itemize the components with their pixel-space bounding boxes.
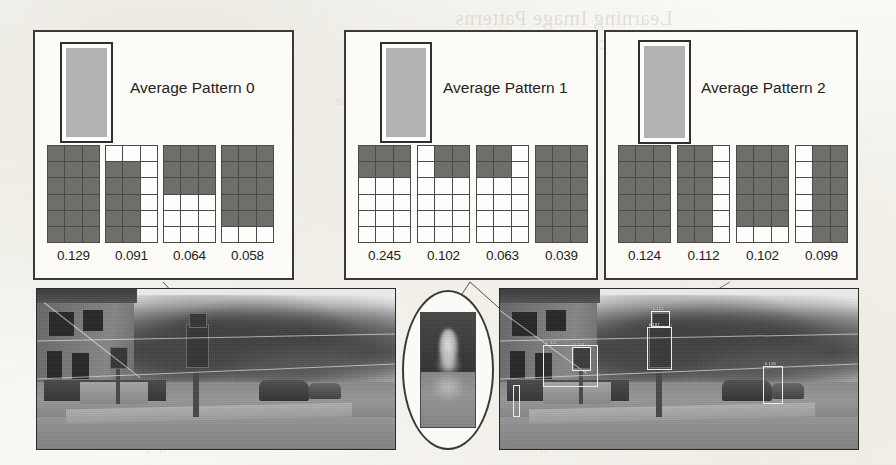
pattern-grid [105,145,158,243]
pattern-cell [536,195,552,210]
pattern-cell [222,162,238,177]
pattern-cell [512,178,528,193]
pattern-swatch: 0.102 [417,145,470,263]
pattern-cell [477,211,493,226]
callout-magnified-crop [420,312,476,428]
pattern-cell [619,195,635,210]
pattern-swatch: 0.099 [795,145,848,263]
pattern-cell [65,195,81,210]
pattern-cell [477,227,493,242]
pattern-cell [831,162,847,177]
pattern-cell [636,162,652,177]
pattern-value-label: 0.039 [545,248,578,263]
pattern-cell [181,227,197,242]
pattern-cell [359,227,375,242]
pattern-cell [494,195,510,210]
pattern-cell [199,146,215,161]
pattern-cell [239,227,255,242]
pattern-cell [536,146,552,161]
pattern-cell [123,211,139,226]
pattern-cell [418,211,434,226]
pattern-cell [571,211,587,226]
pattern-grid [358,145,411,243]
average-pattern-panel-1: Average Pattern 1 0.2450.1020.0630.039 [344,30,598,280]
pattern-cell [123,227,139,242]
pattern-cell [813,146,829,161]
pattern-grid [618,145,671,243]
pattern-cell [257,162,273,177]
pattern-cell [164,146,180,161]
pattern-grid-row-0: 0.1290.0910.0640.058 [47,145,274,263]
pattern-cell [678,178,694,193]
pattern-cell [164,178,180,193]
pattern-cell [813,211,829,226]
pattern-cell [695,227,711,242]
pattern-value-label: 0.099 [805,248,838,263]
pattern-cell [48,162,64,177]
pattern-swatch: 0.039 [535,145,588,263]
pattern-cell [636,211,652,226]
pattern-cell [123,178,139,193]
pattern-cell [106,146,122,161]
pattern-cell [571,162,587,177]
pattern-cell [453,178,469,193]
pattern-cell [418,195,434,210]
magnified-region-callout [402,290,494,450]
pattern-cell [737,211,753,226]
pattern-cell [737,227,753,242]
pattern-cell [512,146,528,161]
pattern-cell [831,211,847,226]
pattern-grid [163,145,216,243]
pattern-cell [553,227,569,242]
pattern-cell [553,162,569,177]
pattern-grid-row-1: 0.2450.1020.0630.039 [358,145,588,263]
pattern-cell [536,178,552,193]
detection-box: 0.342 [543,345,598,387]
street-scene-photo-right: 0.197 0.122 0.113 0.342 0.128 [499,288,859,450]
pattern-cell [772,227,788,242]
pattern-cell [394,195,410,210]
pattern-cell [435,227,451,242]
pattern-cell [376,195,392,210]
pattern-cell [754,211,770,226]
pattern-cell [435,211,451,226]
pattern-cell [106,227,122,242]
pattern-cell [678,162,694,177]
pattern-value-label: 0.091 [115,248,148,263]
pattern-cell [494,162,510,177]
pattern-cell [48,227,64,242]
pattern-cell [737,178,753,193]
pattern-cell [796,178,812,193]
pattern-cell [141,227,157,242]
pattern-grid [221,145,274,243]
detection-label: 0.122 [653,306,664,311]
pattern-cell [394,227,410,242]
pattern-cell [239,211,255,226]
pattern-cell [376,227,392,242]
pattern-cell [772,146,788,161]
pattern-cell [831,227,847,242]
pattern-cell [257,211,273,226]
pattern-cell [83,227,99,242]
pattern-cell [678,211,694,226]
pattern-cell [418,178,434,193]
pattern-cell [619,162,635,177]
pattern-cell [713,162,729,177]
pattern-cell [435,146,451,161]
pattern-cell [106,178,122,193]
pattern-value-label: 0.102 [746,248,779,263]
pattern-cell [636,178,652,193]
pattern-cell [654,195,670,210]
pattern-swatch: 0.129 [47,145,100,263]
pattern-cell [418,162,434,177]
pattern-cell [359,178,375,193]
pattern-cell [636,195,652,210]
pattern-cell [796,211,812,226]
pattern-cell [453,195,469,210]
pattern-value-label: 0.112 [688,248,720,263]
pattern-cell [695,195,711,210]
pattern-cell [477,178,493,193]
pattern-cell [222,146,238,161]
pattern-cell [737,162,753,177]
pattern-grid [47,145,100,243]
